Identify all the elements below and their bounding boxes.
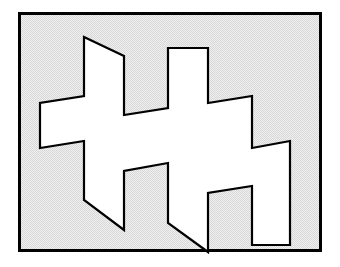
impossible-figure-drawing: Impossible Figure — [0, 0, 340, 267]
figure-canvas: Impossible Figure — [0, 0, 340, 267]
